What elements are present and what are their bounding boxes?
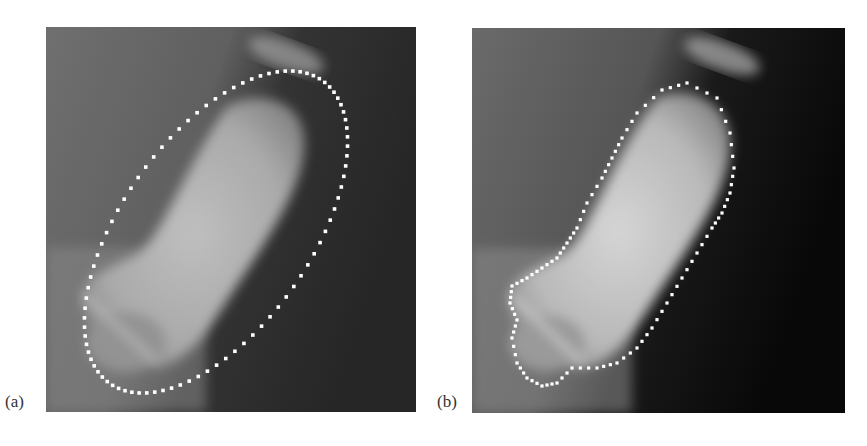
xray-panel-a xyxy=(46,27,416,412)
xray-image-b xyxy=(472,28,845,413)
panel-label-a: (a) xyxy=(5,392,24,412)
panel-label-b: (b) xyxy=(437,392,457,412)
xray-image-a xyxy=(46,27,416,412)
xray-panel-b xyxy=(472,28,845,413)
